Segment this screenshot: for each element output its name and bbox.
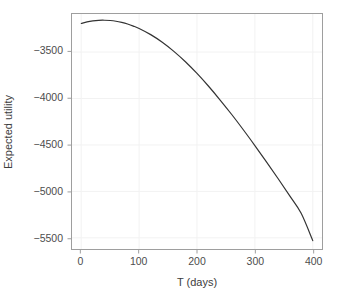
x-axis-tick-marks — [80, 250, 313, 254]
x-tick-label: 400 — [305, 256, 323, 267]
y-tick-label: −5500 — [34, 233, 64, 244]
y-tick-label: −3500 — [34, 45, 64, 56]
gridlines-vertical — [81, 14, 312, 249]
x-axis-title: T (days) — [71, 276, 323, 288]
y-tick-label: −4500 — [34, 139, 64, 150]
x-tick-label: 100 — [130, 256, 148, 267]
chart-figure: −3500−4000−4500−5000−5500 0100200300400 … — [0, 0, 342, 300]
x-tick-label: 300 — [247, 256, 265, 267]
y-axis-title: Expected utility — [2, 95, 14, 169]
x-tick-label: 200 — [188, 256, 206, 267]
x-axis-tick-labels: 0100200300400 — [0, 256, 342, 270]
x-tick-label: 0 — [77, 256, 83, 267]
y-tick-label: −4000 — [34, 92, 64, 103]
y-tick-label: −5000 — [34, 186, 64, 197]
y-axis-title-wrapper: Expected utility — [0, 13, 16, 250]
plot-panel — [71, 13, 323, 250]
plot-area-svg — [72, 14, 322, 249]
